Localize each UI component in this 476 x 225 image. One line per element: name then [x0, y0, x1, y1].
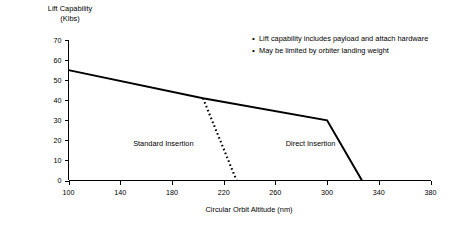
y-tick-label: 30 — [54, 116, 62, 125]
x-tick-label: 100 — [63, 188, 75, 197]
x-tick-label: 180 — [166, 188, 178, 197]
x-axis: 100140180220260300340380 Circular Orbit … — [63, 181, 437, 215]
series-standard-insertion — [203, 98, 237, 180]
y-axis-ticks — [65, 41, 69, 182]
x-tick-label: 140 — [114, 188, 126, 197]
y-tick-label: 40 — [54, 96, 62, 105]
x-axis-tick-labels: 100140180220260300340380 — [63, 188, 437, 197]
x-tick-label: 300 — [321, 188, 333, 197]
y-tick-label: 70 — [54, 36, 62, 45]
data-series-group — [69, 70, 362, 180]
x-tick-label: 380 — [425, 188, 437, 197]
x-tick-label: 220 — [218, 188, 230, 197]
y-tick-label: 10 — [54, 156, 62, 165]
y-axis-tick-labels: 010203040506070 — [54, 36, 62, 186]
x-axis-title: Circular Orbit Altitude (nm) — [205, 205, 292, 214]
y-axis: 010203040506070 — [54, 36, 69, 186]
y-tick-label: 20 — [54, 136, 62, 145]
series-label-direct-insertion: Direct Insertion — [286, 139, 336, 148]
y-tick-label: 50 — [54, 76, 62, 85]
plot-area: 010203040506070 100140180220260300340380… — [0, 0, 476, 225]
series-direct-insertion — [69, 70, 362, 180]
x-axis-ticks — [70, 181, 432, 185]
x-tick-label: 340 — [373, 188, 385, 197]
y-tick-label: 60 — [54, 56, 62, 65]
series-annotations: Standard Insertion Direct Insertion — [133, 139, 335, 148]
chart-figure: Lift Capability(Klbs) • Lift capability … — [0, 0, 476, 225]
y-tick-label: 0 — [58, 176, 62, 185]
series-label-standard-insertion: Standard Insertion — [133, 139, 193, 148]
x-tick-label: 260 — [269, 188, 281, 197]
